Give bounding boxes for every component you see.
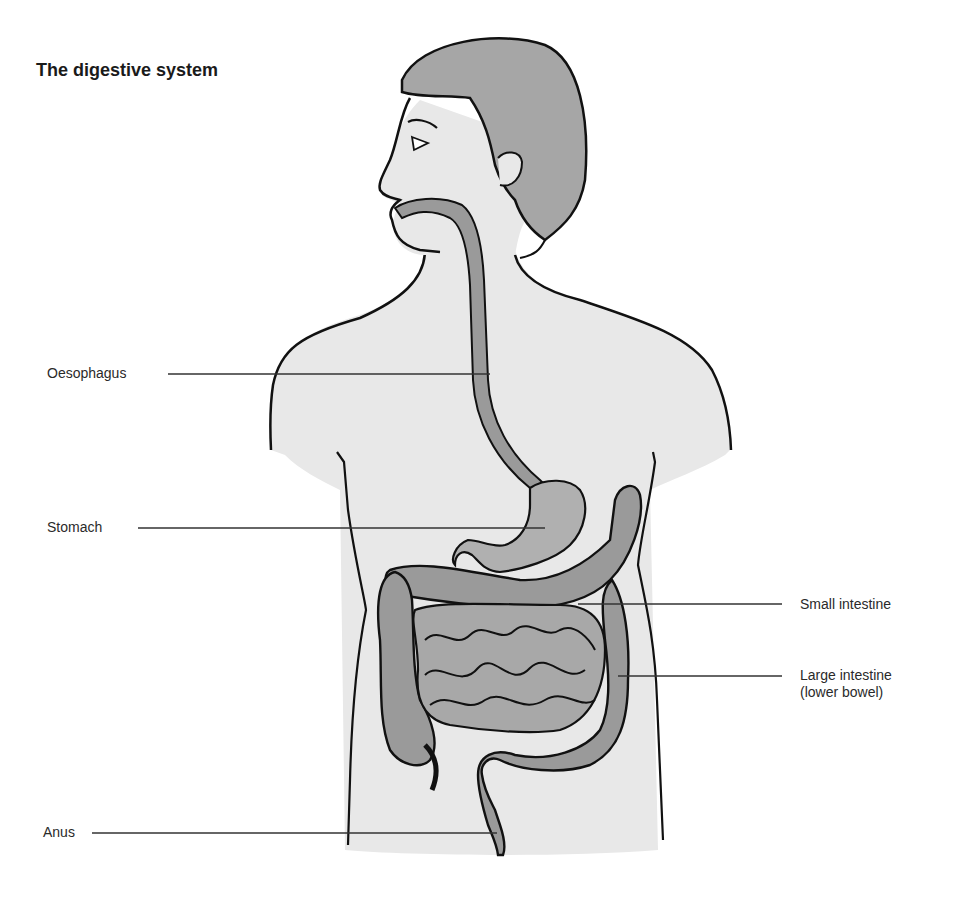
label-stomach: Stomach — [47, 519, 102, 536]
label-oesophagus: Oesophagus — [47, 365, 126, 382]
label-large-intestine: Large intestine (lower bowel) — [800, 667, 892, 701]
small-intestine-organ — [413, 604, 605, 732]
label-large-intestine-line1: Large intestine — [800, 667, 892, 684]
label-anus: Anus — [43, 824, 75, 841]
label-small-intestine: Small intestine — [800, 596, 891, 613]
neck-back — [520, 240, 545, 258]
label-large-intestine-line2: (lower bowel) — [800, 684, 892, 701]
digestive-system-illustration — [0, 0, 957, 898]
